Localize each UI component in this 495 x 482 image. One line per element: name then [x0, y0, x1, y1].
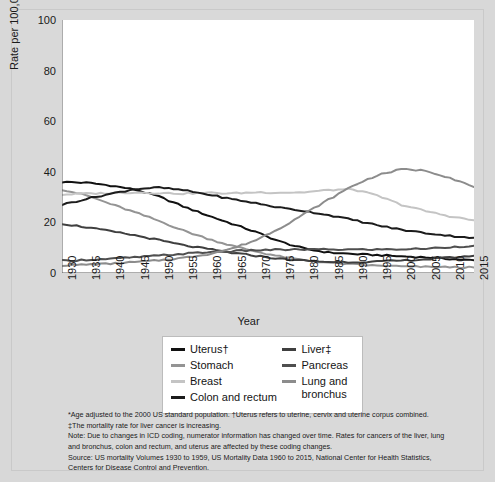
y-tick-label: 80	[26, 66, 56, 77]
footnote-line-5: Source: US mortality Volumes 1930 to 195…	[68, 453, 478, 464]
x-tick-label: 1985	[334, 256, 345, 280]
series-line	[62, 169, 474, 266]
legend-line-swatch	[171, 348, 185, 351]
legend-item[interactable]: Liver‡	[282, 343, 358, 357]
y-tick-label: 60	[26, 116, 56, 127]
legend-label: Uterus†	[190, 343, 229, 356]
x-axis-label: Year	[12, 315, 485, 327]
x-tick-label: 2000	[406, 256, 417, 280]
legend-column-right: Liver‡PancreasLung and bronchus	[282, 343, 358, 407]
legend-column-left: Uterus†StomachBreastColon and rectum	[171, 343, 282, 407]
x-tick-label: 1995	[382, 256, 393, 280]
chart-legend: Uterus†StomachBreastColon and rectum Liv…	[162, 336, 363, 414]
legend-item[interactable]: Stomach	[171, 359, 282, 373]
legend-label: Liver‡	[301, 343, 331, 356]
footnote-line-6: Centers for Disease Control and Preventi…	[68, 463, 478, 474]
figure-panel: 020406080100 193019351940194519501955196…	[11, 9, 484, 471]
legend-label: Colon and rectum	[190, 391, 277, 404]
legend-item[interactable]: Pancreas	[282, 359, 358, 373]
x-tick-label: 1990	[358, 256, 369, 280]
legend-item[interactable]: Lung and bronchus	[282, 375, 358, 400]
x-tick-label: 1975	[285, 256, 296, 280]
y-axis-label: Rate per 100,000 Female Population	[8, 0, 20, 70]
x-tick-label: 1940	[115, 256, 126, 280]
legend-label: Lung and bronchus	[301, 375, 358, 400]
legend-label: Stomach	[190, 359, 233, 372]
x-tick-label: 1965	[237, 256, 248, 280]
legend-item[interactable]: Breast	[171, 375, 282, 389]
x-tick-label: 1955	[188, 256, 199, 280]
x-tick-label: 1930	[67, 256, 78, 280]
x-tick-label: 1970	[261, 256, 272, 280]
legend-line-swatch	[171, 364, 185, 367]
x-tick-label: 1950	[164, 256, 175, 280]
x-tick-label: 1945	[140, 256, 151, 280]
y-tick-label: 20	[26, 217, 56, 228]
line-chart	[62, 20, 474, 273]
plot-area	[62, 20, 474, 273]
legend-line-swatch	[282, 380, 296, 383]
x-tick-label: 1960	[212, 256, 223, 280]
y-tick-label: 40	[26, 167, 56, 178]
y-tick-label: 100	[26, 15, 56, 26]
x-tick-label: 1935	[91, 256, 102, 280]
x-tick-label: 2005	[431, 256, 442, 280]
x-tick-label: 2010	[455, 256, 466, 280]
y-tick-label: 0	[26, 268, 56, 279]
legend-line-swatch	[171, 396, 185, 399]
footnote-line-4: and bronchus, colon and rectum, and uter…	[68, 442, 478, 453]
x-tick-label: 2015	[479, 256, 490, 280]
legend-line-swatch	[171, 380, 185, 383]
footnote-line-2: ‡The mortality rate for liver cancer is …	[68, 421, 478, 432]
legend-label: Breast	[190, 375, 222, 388]
series-line	[62, 187, 474, 238]
legend-label: Pancreas	[301, 359, 347, 372]
legend-line-swatch	[282, 348, 296, 351]
footnote-line-3: Note: Due to changes in ICD coding, nume…	[68, 431, 478, 442]
footnotes: *Age adjusted to the 2000 US standard po…	[68, 410, 478, 474]
legend-item[interactable]: Colon and rectum	[171, 391, 282, 405]
legend-line-swatch	[282, 364, 296, 367]
footnote-line-1: *Age adjusted to the 2000 US standard po…	[68, 410, 478, 421]
x-tick-label: 1980	[309, 256, 320, 280]
legend-item[interactable]: Uterus†	[171, 343, 282, 357]
